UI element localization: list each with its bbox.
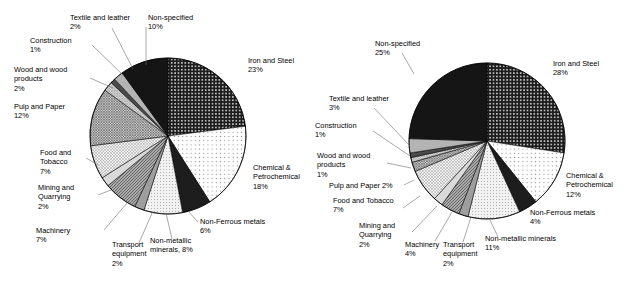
pie-slice-label: Non-metallicminerals, 8% (150, 236, 193, 254)
pie-slice-label: Mining andQuarrying2% (38, 183, 74, 211)
label-leader-line (404, 180, 414, 185)
label-leader-line (387, 163, 411, 168)
pie-slice-label: Chemical &Petrochemical12% (566, 171, 613, 199)
label-leader-line (374, 108, 410, 146)
pie-slice-label: Food and Tobacco7% (333, 196, 394, 214)
pie-slice-label: Textile and leather3% (329, 94, 390, 112)
label-leader-line (188, 211, 198, 222)
left-chart-panel: Iron and Steel23%Chemical &Petrochemical… (0, 0, 315, 287)
left-pie-chart: Iron and Steel23%Chemical &Petrochemical… (0, 0, 315, 287)
pie-slice-label: Mining andQuarrying2% (359, 221, 395, 249)
label-leader-line (412, 206, 437, 232)
pie-charts-figure: Iron and Steel23%Chemical &Petrochemical… (0, 0, 630, 287)
pie-slice-label: Machinery4% (405, 240, 439, 258)
pie-slice[interactable] (409, 63, 487, 141)
right-chart-panel: Iron and Steel28%Chemical &Petrochemical… (315, 0, 630, 287)
label-leader-line (402, 53, 414, 74)
label-leader-line (98, 190, 111, 195)
pie-slice-label: Iron and Steel28% (553, 59, 599, 77)
pie-slice-label: Construction1% (30, 36, 72, 54)
pie-slice-label: Machinery7% (36, 226, 70, 244)
label-leader-line (90, 78, 113, 88)
pie-slices (409, 63, 565, 219)
pie-slice-label: Non-specified25% (375, 39, 420, 57)
pie-slice-label: Transportequipment2% (443, 240, 478, 268)
pie-slice-label: Construction1% (315, 121, 357, 139)
pie-slice-label: Transportequipment2% (112, 240, 147, 268)
pie-slice-label: Wood and woodproducts1% (317, 151, 370, 179)
label-leader-line (92, 45, 124, 76)
pie-slice-label: Non-metallic minerals11% (485, 234, 556, 252)
pie-slice-label: Wood and woodproducts2% (14, 65, 67, 93)
right-pie-chart: Iron and Steel28%Chemical &Petrochemical… (315, 0, 630, 287)
pie-slice[interactable] (168, 58, 245, 136)
label-leader-line (463, 217, 471, 242)
pie-slices (90, 58, 246, 214)
pie-slice-label: Pulp and Paper 2% (329, 181, 393, 190)
label-leader-line (435, 212, 452, 241)
pie-slice-label: Textile and leather2% (70, 13, 131, 31)
pie-slice-label: Pulp and Paper12% (14, 102, 65, 120)
label-leader-line (112, 28, 133, 69)
pie-slice-label: Iron and Steel23% (248, 56, 294, 74)
pie-slice-label: Non-specified10% (148, 13, 193, 31)
pie-slice-label: Non-Ferrous metals6% (200, 217, 266, 235)
pie-slice-label: Food andTobacco7% (40, 148, 71, 176)
label-leader-line (403, 196, 420, 208)
label-leader-line (104, 203, 127, 230)
pie-slice-label: Non-Ferrous metals4% (530, 208, 596, 226)
label-leader-line (373, 131, 410, 156)
pie-slice-label: Chemical &Petrochemical18% (253, 163, 300, 191)
